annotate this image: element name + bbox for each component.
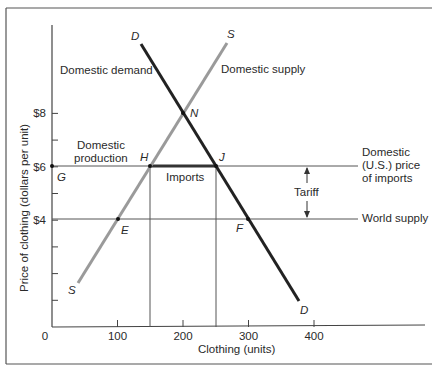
point-h-label: H	[140, 151, 149, 163]
price-imports-label-2: (U.S.) price	[362, 159, 420, 171]
price-imports-label-1: Domestic	[362, 146, 410, 158]
x-tick-label: 100	[108, 330, 127, 342]
point-j-label: J	[218, 151, 225, 163]
x-tick-label: 0	[42, 330, 48, 342]
tariff-supply-demand-chart: $4$6$8 0100200300400 D S D S Domestic de…	[0, 0, 435, 372]
point-f	[246, 217, 250, 221]
x-tick-label: 400	[304, 330, 323, 342]
domestic-demand-label: Domestic demand	[60, 64, 153, 76]
y-tick-label: $4	[33, 214, 46, 226]
y-ticks: $4$6$8	[33, 107, 58, 300]
point-h	[148, 164, 152, 168]
imports-label: Imports	[166, 171, 205, 183]
demand-top-label: D	[131, 30, 139, 42]
demand-curve	[141, 44, 299, 301]
point-g	[50, 164, 54, 168]
point-n	[181, 111, 185, 115]
y-tick-label: $6	[33, 161, 46, 173]
x-axis-label: Clothing (units)	[198, 343, 276, 355]
x-axis	[52, 325, 425, 327]
point-n-label: N	[190, 107, 199, 119]
supply-top-label: S	[227, 28, 235, 40]
supply-bottom-label: S	[68, 284, 76, 296]
x-ticks: 0100200300400	[42, 320, 324, 342]
point-e-label: E	[121, 224, 129, 236]
x-tick-label: 200	[173, 330, 192, 342]
point-e	[116, 217, 120, 221]
x-tick-label: 300	[239, 330, 258, 342]
world-supply-label: World supply	[362, 212, 429, 224]
domestic-supply-label: Domestic supply	[221, 63, 306, 75]
domestic-production-label-2: production	[74, 152, 128, 164]
demand-bottom-label: D	[300, 304, 308, 316]
point-g-label: G	[57, 171, 66, 183]
domestic-production-label-1: Domestic	[77, 139, 125, 151]
tariff-label: Tariff	[294, 186, 320, 198]
y-tick-label: $8	[33, 107, 46, 119]
point-f-label: F	[236, 222, 244, 234]
chart-frame	[6, 8, 432, 364]
y-axis-label: Price of clothing (dollars per unit)	[18, 124, 30, 292]
price-imports-label-3: of imports	[362, 172, 413, 184]
point-j	[214, 164, 218, 168]
